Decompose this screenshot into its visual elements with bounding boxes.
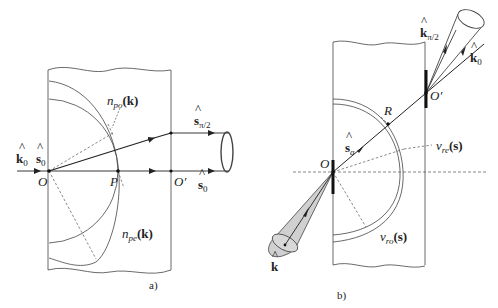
output-ring-a [221,132,233,172]
hat-s0-right-a: ^ [199,165,205,180]
label-O-a: O [38,174,48,189]
label-O-prime-a: O′ [174,174,186,189]
point-O-prime-b [424,91,428,95]
index-surface-npe [49,81,119,265]
label-vre: vre(s) [436,138,463,155]
hat-k-b: ^ [272,247,278,262]
label-npo: npo(k) [107,93,138,110]
point-R-b [386,122,390,126]
input-cone-b [268,172,333,257]
hat-sa-b: ^ [346,128,352,143]
panel-a: k0 ^ s0 ^ O P O′ npo(k) npe(k) sπ/2 ^ s0… [16,67,233,292]
hat-k0-b: ^ [471,38,477,53]
point-O-b [331,170,335,174]
arrow-head-sa [357,146,364,153]
label-O-b: O [320,156,330,171]
label-P-a: P [109,174,118,189]
npo-pointer [112,108,120,128]
hat-k0-a: ^ [19,139,25,154]
panel-b: O R O′ sa ^ vre(s) vro(s) kπ/2 ^ k0 ^ k … [268,0,487,302]
rays-a [17,133,229,171]
point-P-a [116,169,120,173]
label-R-b: R [383,103,392,118]
point-exit-a [169,131,172,134]
label-vro: vro(s) [380,229,407,246]
ray-surface-vre [333,99,403,242]
hat-k-pi2-b: ^ [421,13,427,28]
label-O-prime-b: O′ [430,88,442,103]
label-npe: npe(k) [122,226,153,243]
hat-s-pi2-a: ^ [195,101,201,116]
caption-b: b) [337,289,347,302]
point-O-prime-a [169,169,172,172]
point-O-a [47,169,51,173]
hat-s0-left-a: ^ [37,139,43,154]
diagram-canvas: k0 ^ s0 ^ O P O′ npo(k) npe(k) sπ/2 ^ s0… [0,0,498,308]
caption-a: a) [149,279,158,292]
